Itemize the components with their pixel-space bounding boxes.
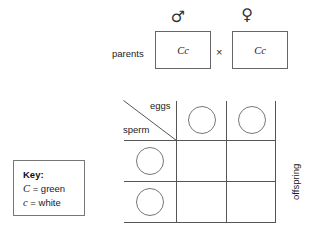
sperm-gamete-circle-1 bbox=[136, 147, 164, 175]
egg-gamete-circle-1 bbox=[188, 106, 216, 134]
eggs-label: eggs bbox=[150, 100, 171, 111]
sperm-label: sperm bbox=[123, 124, 149, 135]
offspring-cell-r1c1[interactable] bbox=[177, 141, 226, 181]
offspring-cell-r2c1[interactable] bbox=[177, 182, 226, 222]
diagram-canvas: ♂ ♀ parents Cc × Cc Key: C = green c = w… bbox=[0, 0, 317, 231]
offspring-cell-r1c2[interactable] bbox=[227, 141, 275, 181]
sperm-gamete-circle-2 bbox=[136, 188, 164, 216]
egg-gamete-circle-2 bbox=[238, 106, 266, 134]
offspring-cell-r2c2[interactable] bbox=[227, 182, 275, 222]
